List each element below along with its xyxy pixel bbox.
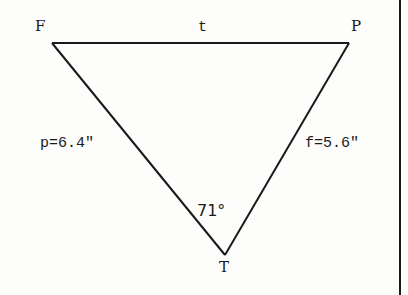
side-f-label: f=5.6" (305, 136, 359, 151)
vertex-f-label: F (35, 19, 45, 34)
vertex-t-label: T (219, 260, 229, 275)
triangle-diagram: F P T t p=6.4" f=5.6" 71° (0, 0, 408, 295)
side-t-label: t (198, 20, 207, 35)
angle-t-label: 71° (197, 203, 225, 219)
side-p-label: p=6.4" (40, 136, 94, 151)
vertex-p-label: P (351, 19, 361, 34)
frame-border-right (399, 0, 401, 295)
